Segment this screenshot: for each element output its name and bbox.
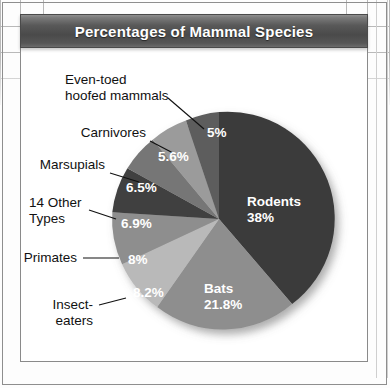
slice-value-primates: 8% — [128, 252, 148, 267]
callout-label-marsupials: Marsupials — [21, 157, 105, 173]
slice-label-rodents-value: 38% — [247, 210, 274, 225]
callout-label-insect-eaters: Insect-eaters — [21, 297, 93, 328]
slice-value-14-other: 6.9% — [121, 216, 152, 231]
pie-chart: Rodents 38% Bats 21.8% 5% 5.6% 6.5% 6.9%… — [21, 49, 367, 361]
slice-label-bats-value: 21.8% — [204, 297, 242, 312]
slice-value-carnivores: 5.6% — [158, 149, 189, 164]
page-title: Percentages of Mammal Species — [75, 23, 313, 40]
slice-value-even-toed: 5% — [207, 125, 227, 140]
figure-title-bar: Percentages of Mammal Species — [20, 14, 368, 48]
slice-label-rodents-name: Rodents — [247, 194, 301, 209]
callout-label-even-toed-hoofed-mammals: Even-toed hoofed mammals — [65, 72, 215, 103]
callout-label-14-other-types: 14 Other Types — [29, 195, 99, 226]
figure-panel: Percentages of Mammal Species — [20, 14, 368, 362]
slice-value-insect-eaters: 8.2% — [133, 285, 164, 300]
callout-label-carnivores: Carnivores — [31, 125, 146, 141]
leader-line-insect-eaters — [99, 298, 126, 305]
slice-label-bats-name: Bats — [204, 281, 233, 296]
callout-label-primates: Primates — [21, 250, 77, 266]
slice-value-marsupials: 6.5% — [126, 180, 157, 195]
page-rule — [387, 0, 388, 378]
scanned-page: Percentages of Mammal Species — [0, 0, 390, 388]
